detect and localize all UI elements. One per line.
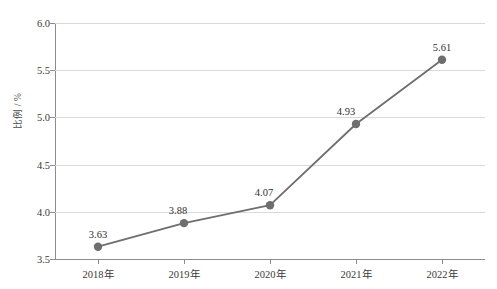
y-axis-tick-label: 6.0 xyxy=(16,18,50,29)
x-axis-tick-mark xyxy=(356,259,357,264)
y-axis-tick-label: 3.5 xyxy=(16,254,50,265)
data-point-marker xyxy=(180,219,188,227)
data-point-label: 3.63 xyxy=(89,229,107,240)
x-axis-tick-label: 2021年 xyxy=(341,266,372,281)
x-axis-tick-mark xyxy=(98,259,99,264)
data-point-label: 5.61 xyxy=(433,42,451,53)
data-point-label: 4.93 xyxy=(337,106,355,117)
data-point-label: 3.88 xyxy=(169,205,187,216)
data-point-marker xyxy=(94,243,102,251)
x-axis-tick-label: 2018年 xyxy=(83,266,114,281)
series-line xyxy=(55,23,485,259)
data-point-marker xyxy=(266,201,274,209)
data-point-marker xyxy=(352,120,360,128)
y-axis-tick-label: 4.0 xyxy=(16,206,50,217)
x-axis-tick-mark xyxy=(184,259,185,264)
y-axis-tick-labels: 3.54.04.55.05.56.0 xyxy=(12,0,50,289)
data-point-marker xyxy=(438,56,446,64)
data-point-label: 4.07 xyxy=(255,187,273,198)
x-axis-tick-label: 2022年 xyxy=(427,266,458,281)
y-axis-tick-label: 5.0 xyxy=(16,112,50,123)
y-axis-tick-label: 5.5 xyxy=(16,65,50,76)
x-axis-tick-label: 2020年 xyxy=(255,266,286,281)
plot-area: 3.633.884.074.935.61 xyxy=(55,23,485,259)
series-markers xyxy=(94,56,446,251)
x-axis-tick-label: 2019年 xyxy=(169,266,200,281)
x-axis-tick-mark xyxy=(442,259,443,264)
line-chart: 比例 / % 3.54.04.55.05.56.0 3.633.884.074.… xyxy=(0,0,497,289)
x-axis-tick-mark xyxy=(270,259,271,264)
y-axis-tick-mark xyxy=(50,259,55,260)
series-polyline xyxy=(98,60,442,247)
y-axis-tick-label: 4.5 xyxy=(16,159,50,170)
